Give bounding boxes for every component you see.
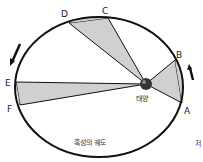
point-label-f: F [7, 104, 12, 114]
sector-ef [16, 82, 146, 105]
sector-cd [69, 18, 146, 84]
point-label-a: A [184, 106, 191, 116]
arrow-left-icon [10, 44, 20, 66]
point-label-d: D [61, 9, 68, 19]
point-label-e: E [5, 78, 11, 88]
point-label-c: C [102, 6, 108, 16]
sun [140, 78, 152, 90]
arrow-right-icon [187, 64, 193, 80]
kepler-orbit-diagram: A B C D E F 태양 혹성의 궤도 저 [0, 0, 203, 162]
sun-label: 태양 [136, 95, 149, 103]
point-label-b: B [176, 50, 182, 60]
side-text: 저 [195, 139, 201, 148]
orbit-label: 혹성의 궤도 [74, 138, 107, 147]
